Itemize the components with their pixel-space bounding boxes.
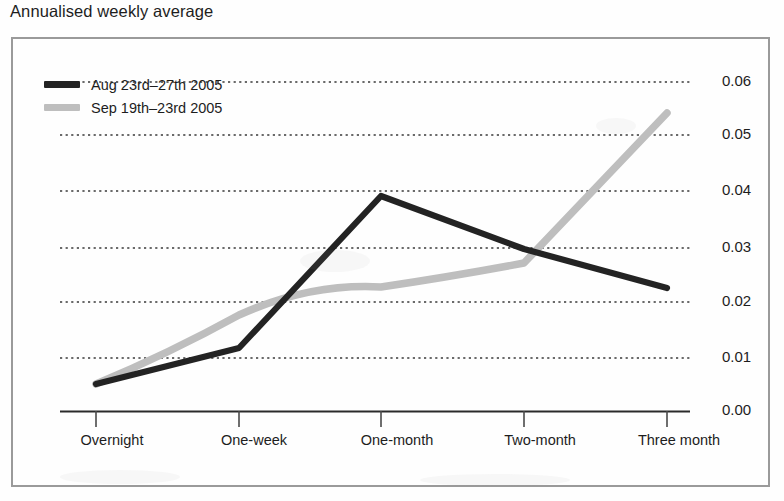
y-axis-label-0.03: 0.03 — [722, 238, 751, 255]
y-axis-label-0.06: 0.06 — [722, 72, 751, 89]
y-axis-label-0.02: 0.02 — [722, 292, 751, 309]
legend-swatch-icon-sep — [44, 104, 80, 111]
x-axis-label-three-month: Three month — [638, 432, 720, 448]
x-axis-label-overnight: Overnight — [81, 432, 144, 448]
legend-swatch-icon-aug — [44, 81, 80, 88]
legend-item-sep: Sep 19th–23rd 2005 — [44, 99, 222, 116]
gridlines — [60, 82, 690, 358]
x-axis-label-two-month: Two-month — [504, 432, 576, 448]
y-axis-label-0.04: 0.04 — [722, 181, 751, 198]
x-axis-ticks — [96, 411, 667, 427]
legend-item-aug: Aug 23rd–27th 2005 — [44, 76, 222, 93]
legend-label-aug: Aug 23rd–27th 2005 — [91, 77, 222, 93]
x-axis-label-one-month: One-month — [361, 432, 434, 448]
chart-legend: Aug 23rd–27th 2005 Sep 19th–23rd 2005 — [44, 76, 222, 116]
y-axis-label-0.01: 0.01 — [722, 348, 751, 365]
y-axis-label-0.00: 0.00 — [722, 401, 751, 418]
chart-figure: Annualised weekly average — [0, 0, 784, 501]
y-axis-label-0.05: 0.05 — [722, 125, 751, 142]
x-axis-label-one-week: One-week — [221, 432, 287, 448]
legend-label-sep: Sep 19th–23rd 2005 — [91, 100, 222, 116]
